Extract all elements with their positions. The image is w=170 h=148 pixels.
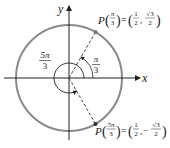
svg-text:(: ( <box>128 124 133 140</box>
svg-text:): ) <box>162 124 167 140</box>
svg-text:(: ( <box>105 13 110 29</box>
point-label-pi-over-3: P ( π 3 ) = ( 1 2 , √3 2 ) <box>97 10 161 29</box>
angle-arc-pi-over-3 <box>81 57 93 78</box>
svg-text:2: 2 <box>134 130 138 138</box>
svg-text:(: ( <box>128 13 133 29</box>
svg-text:5π: 5π <box>40 50 50 60</box>
svg-text:P: P <box>94 125 102 137</box>
svg-text:,: , <box>140 126 142 136</box>
point-label-5pi-over-3: P ( 5π 3 ) = ( 1 2 , − √3 2 ) <box>94 121 167 140</box>
svg-text:(: ( <box>102 124 107 140</box>
radius-5pi-over-3 <box>69 78 96 124</box>
x-axis-label: x <box>141 71 148 85</box>
angle-label-pi-over-3: π 3 <box>92 54 100 75</box>
svg-text:2: 2 <box>154 130 158 138</box>
svg-text:2: 2 <box>134 19 138 27</box>
svg-text:=: = <box>121 14 127 25</box>
svg-text:5π: 5π <box>107 121 115 129</box>
angle-label-5pi-over-3: 5π 3 <box>39 50 51 71</box>
svg-text:π: π <box>94 54 99 64</box>
y-axis-label: y <box>57 2 64 16</box>
svg-text:3: 3 <box>111 19 115 27</box>
svg-text:π: π <box>111 10 115 18</box>
svg-text:=: = <box>121 125 127 136</box>
svg-text:P: P <box>97 14 105 26</box>
svg-text:): ) <box>156 13 161 29</box>
svg-text:,: , <box>140 15 142 25</box>
svg-text:√3: √3 <box>146 10 154 18</box>
svg-text:1: 1 <box>134 121 138 129</box>
point-pi-over-3 <box>94 30 98 34</box>
svg-text:√3: √3 <box>152 121 160 129</box>
svg-text:2: 2 <box>148 19 152 27</box>
unit-circle-diagram: x y π 3 5π 3 P ( π 3 ) = ( 1 2 , √3 2 ) <box>0 0 170 148</box>
svg-text:3: 3 <box>94 65 99 75</box>
svg-text:−: − <box>143 125 148 135</box>
svg-text:1: 1 <box>134 10 138 18</box>
svg-text:3: 3 <box>109 130 113 138</box>
svg-text:3: 3 <box>43 61 48 71</box>
